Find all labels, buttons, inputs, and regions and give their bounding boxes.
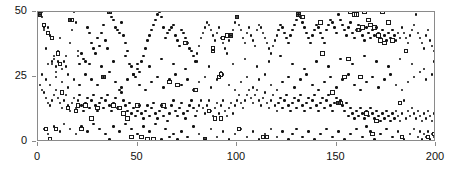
data-point-dot: [172, 63, 175, 66]
data-point-dot: [162, 115, 165, 118]
data-point-dot: [164, 128, 167, 131]
data-point-dot: [383, 34, 386, 37]
data-point-dot: [67, 86, 70, 89]
data-point-dot: [228, 84, 231, 87]
data-point-dot: [92, 94, 95, 97]
data-point-dot: [331, 21, 334, 24]
data-point-dot: [319, 32, 322, 35]
data-point-square: [400, 135, 405, 140]
data-point-dot: [77, 50, 80, 53]
data-point-dot: [425, 78, 428, 81]
data-point-dot: [307, 37, 310, 40]
data-point-dot: [433, 50, 434, 53]
data-point-dot: [421, 138, 424, 140]
data-point-dot: [154, 112, 157, 115]
data-point-dot: [180, 130, 183, 133]
data-point-dot: [106, 94, 109, 97]
data-point-dot: [313, 138, 316, 140]
data-point-dot: [218, 112, 221, 115]
data-point-square: [358, 75, 363, 80]
data-point-dot: [349, 107, 352, 110]
data-point-dot: [106, 47, 109, 50]
data-point-dot: [361, 136, 364, 139]
data-point-dot: [397, 115, 400, 118]
data-point-dot: [317, 89, 320, 92]
data-point-dot: [276, 34, 279, 37]
data-point-dot: [268, 60, 271, 63]
data-point-dot: [343, 110, 346, 113]
data-point-dot: [160, 58, 163, 61]
data-point-dot: [347, 115, 350, 118]
data-point-square: [183, 41, 188, 46]
scatter-plot-figure: 05010015020002550: [0, 0, 449, 177]
data-point-square: [265, 135, 270, 140]
data-point-dot: [114, 97, 117, 100]
data-point-square: [237, 127, 242, 132]
data-point-dot: [78, 63, 81, 66]
data-point-dot: [264, 91, 267, 94]
data-point-square: [426, 135, 431, 140]
data-point-dot: [431, 120, 434, 123]
data-point-dot: [148, 115, 151, 118]
data-point-dot: [246, 94, 249, 97]
data-point-dot: [421, 42, 424, 45]
data-point-dot: [373, 138, 376, 140]
data-point-dot: [43, 91, 46, 94]
data-point-square: [362, 12, 367, 14]
data-point-dot: [383, 78, 386, 81]
data-point-dot: [162, 26, 165, 29]
data-point-square: [211, 49, 216, 54]
data-point-dot: [222, 99, 225, 102]
data-point-dot: [210, 128, 213, 131]
data-point-dot: [339, 19, 342, 22]
data-point-dot: [120, 21, 123, 24]
data-point-square: [76, 103, 81, 108]
data-point-dot: [291, 133, 294, 136]
data-point-dot: [325, 29, 328, 32]
data-point-dot: [277, 29, 280, 32]
data-point-dot: [389, 120, 392, 123]
data-point-square: [167, 80, 172, 85]
data-point-dot: [387, 65, 390, 68]
data-point-dot: [375, 110, 378, 113]
data-point-square: [107, 12, 112, 14]
data-point-dot: [45, 47, 48, 50]
data-point-dot: [423, 68, 426, 71]
data-point-dot: [276, 136, 279, 139]
data-point-dot: [73, 97, 76, 100]
data-point-dot: [80, 52, 83, 55]
data-point-square: [161, 103, 166, 108]
x-axis-tick: [37, 142, 38, 146]
data-point-dot: [252, 102, 255, 105]
data-point-dot: [174, 34, 177, 37]
data-point-dot: [142, 117, 145, 120]
data-point-square: [54, 127, 59, 132]
data-point-dot: [75, 21, 78, 24]
data-point-square: [38, 12, 42, 17]
data-point-square: [42, 23, 47, 28]
data-point-dot: [411, 63, 414, 66]
data-point-dot: [429, 39, 432, 42]
y-axis-tick-label: 25: [3, 70, 27, 81]
data-point-dot: [268, 47, 271, 50]
data-point-dot: [61, 68, 64, 71]
data-point-dot: [365, 125, 368, 128]
data-point-dot: [393, 34, 396, 37]
data-point-dot: [403, 99, 406, 102]
data-point-dot: [381, 112, 384, 115]
data-point-square: [380, 12, 385, 14]
data-point-dot: [65, 94, 68, 97]
data-point-dot: [224, 110, 227, 113]
data-point-square: [318, 20, 323, 25]
x-axis-tick: [137, 142, 138, 146]
data-point-dot: [268, 107, 271, 110]
data-point-dot: [399, 120, 402, 123]
data-point-dot: [180, 102, 183, 105]
data-point-dot: [238, 94, 241, 97]
data-point-dot: [61, 107, 64, 110]
data-point-dot: [204, 26, 207, 29]
data-point-dot: [112, 19, 115, 22]
y-axis-tick-label: 50: [3, 5, 27, 16]
data-point-dot: [53, 94, 56, 97]
data-point-dot: [86, 97, 89, 100]
